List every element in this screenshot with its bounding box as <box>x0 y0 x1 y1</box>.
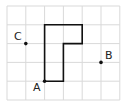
grid-diagram: A B C <box>0 0 127 103</box>
point-b <box>99 61 103 65</box>
label-a: A <box>33 82 41 93</box>
label-b: B <box>105 50 113 61</box>
point-c <box>24 42 28 46</box>
point-a <box>43 79 47 83</box>
label-c: C <box>14 31 22 42</box>
